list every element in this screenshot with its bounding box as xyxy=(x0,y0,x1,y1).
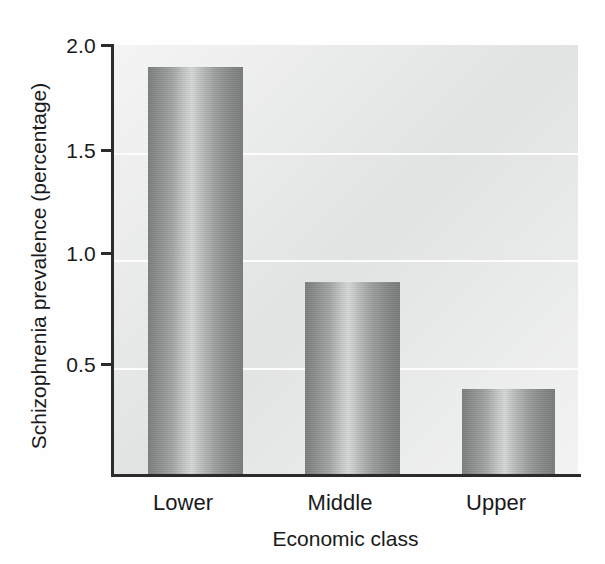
x-axis-line xyxy=(111,474,581,477)
x-tick-label-lower: Lower xyxy=(98,490,268,516)
plot-area xyxy=(113,45,578,475)
bar-texture xyxy=(305,282,400,476)
x-tick-label-upper: Upper xyxy=(411,490,581,516)
bar-texture xyxy=(148,67,243,476)
x-axis-title: Economic class xyxy=(113,527,578,551)
bar-texture xyxy=(462,389,555,475)
bar-upper xyxy=(462,389,555,475)
y-tick-label-0-5: 0.5 xyxy=(44,353,96,377)
y-tick-label-1-5: 1.5 xyxy=(44,139,96,163)
bar-middle xyxy=(305,282,400,476)
y-tick-label-1-0: 1.0 xyxy=(44,242,96,266)
y-tick-mark-1-0 xyxy=(101,252,113,255)
y-tick-mark-0-5 xyxy=(101,363,113,366)
y-axis-line xyxy=(111,44,114,477)
y-axis-title: Schizophrenia prevalence (percentage) xyxy=(27,51,51,481)
y-tick-mark-1-5 xyxy=(101,149,113,152)
x-tick-label-middle: Middle xyxy=(255,490,425,516)
y-tick-mark-2-0 xyxy=(101,44,113,47)
y-tick-label-2-0: 2.0 xyxy=(44,34,96,58)
bar-chart-figure: 2.0 1.5 1.0 0.5 Schizophrenia prevalence… xyxy=(0,0,605,564)
bar-lower xyxy=(148,67,243,476)
